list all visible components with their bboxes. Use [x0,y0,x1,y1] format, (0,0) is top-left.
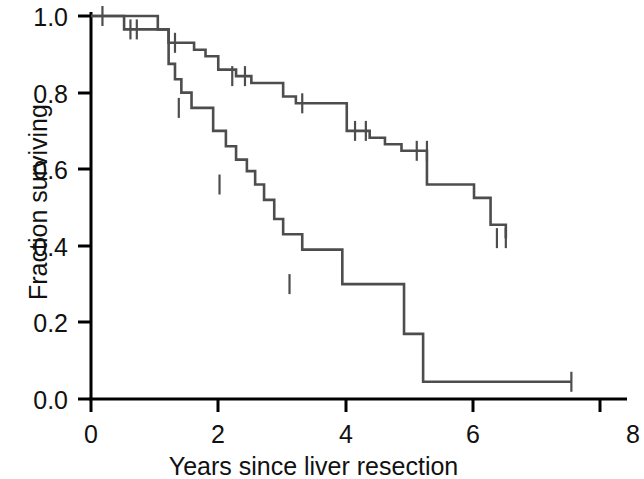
y-axis-title: Fraction surviving [24,104,53,300]
y-tick-label-1-0: 1.0 [0,3,68,32]
x-tick-label-4: 4 [326,420,366,449]
x-axis-ticks [91,399,600,412]
y-tick-label-0-0: 0.0 [0,386,68,415]
axes-group [78,12,627,412]
x-tick-label-8: 8 [613,420,644,449]
lower-survival-curve [91,16,571,382]
series-group [91,6,571,392]
upper-survival-curve [91,16,506,238]
x-axis-title: Years since liver resection [0,452,627,479]
x-tick-label-0: 0 [71,420,111,449]
x-tick-label-2: 2 [198,420,238,449]
x-tick-label-6: 6 [453,420,493,449]
lower-survival-curve-censor-marks [179,98,572,392]
upper-survival-curve-censor-marks [102,6,505,248]
y-axis-ticks [78,16,91,399]
y-tick-label-0-2: 0.2 [0,309,68,338]
